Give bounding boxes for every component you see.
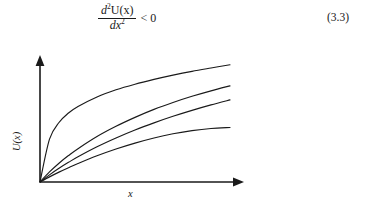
utility-curves-figure: U(x) x <box>0 45 260 209</box>
x-axis-arrowhead <box>233 178 244 187</box>
equation-row: d2U(x) dx2 < 0 (3.3) <box>0 0 367 40</box>
y-axis-arrowhead <box>36 55 45 66</box>
utility-curve-4 <box>40 128 230 183</box>
equation-relation: < 0 <box>140 11 156 26</box>
derivative-fraction: d2U(x) dx2 <box>98 4 136 33</box>
denominator-exponent: 2 <box>121 17 125 26</box>
denominator-dx-symbol: dx <box>110 18 121 32</box>
fraction-denominator: dx2 <box>107 19 128 33</box>
fraction-numerator: d2U(x) <box>98 4 136 18</box>
x-axis-label: x <box>127 188 133 199</box>
equation-number: (3.3) <box>327 11 349 23</box>
y-axis-label: U(x) <box>11 131 23 151</box>
numerator-function: U(x) <box>111 3 134 17</box>
utility-curve-3 <box>40 100 230 182</box>
equation-expression: d2U(x) dx2 < 0 <box>98 4 156 33</box>
utility-curve-1 <box>40 65 230 182</box>
